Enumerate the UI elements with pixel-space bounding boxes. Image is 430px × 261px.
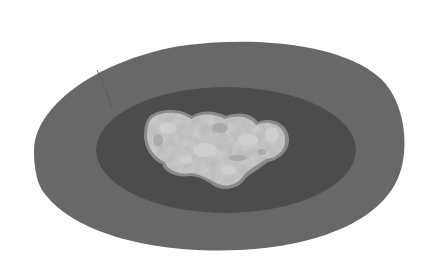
image-scene — [0, 0, 430, 261]
pan-illustration — [0, 0, 430, 261]
